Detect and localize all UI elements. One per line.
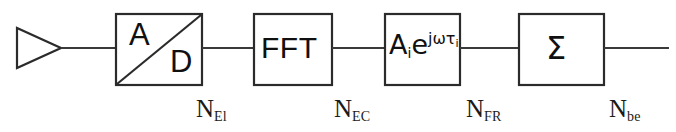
- label-n-ec-subscript: EC: [352, 109, 370, 124]
- phase-exponential-base: e: [411, 29, 428, 60]
- label-n-fr-subscript: FR: [484, 109, 502, 124]
- summer-block-label: Σ: [546, 32, 566, 64]
- label-n-fr: NFR: [466, 96, 502, 124]
- adc-analog-label: A: [129, 19, 150, 50]
- phase-amplitude-symbol: A: [389, 29, 407, 60]
- label-n-fr-base: N: [466, 95, 484, 122]
- label-n-ec-base: N: [334, 95, 352, 122]
- label-n-be-subscript: be: [627, 109, 641, 124]
- adc-digital-label: D: [170, 46, 192, 77]
- label-n-ec: NEC: [334, 96, 370, 124]
- block-diagram-canvas: A D FFT Aiejωτi Σ NEl NEC NFR Nbe: [0, 0, 676, 132]
- phase-exponent-subscript: i: [455, 37, 458, 50]
- phase-exponent: jωτi: [428, 29, 459, 48]
- label-n-el-subscript: El: [214, 109, 227, 124]
- label-n-be-base: N: [609, 95, 627, 122]
- label-n-el-base: N: [196, 95, 214, 122]
- amplifier-triangle-icon: [17, 28, 61, 68]
- label-n-el: NEl: [196, 96, 227, 124]
- phase-exponent-text: jωτ: [428, 29, 455, 48]
- phase-shift-block-label: Aiejωτi: [389, 31, 459, 60]
- label-n-be: Nbe: [609, 96, 641, 124]
- fft-block-label: FFT: [261, 33, 317, 63]
